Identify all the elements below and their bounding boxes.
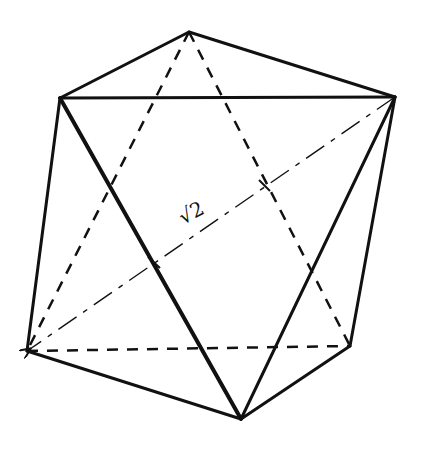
sqrt2-diagonal bbox=[30, 97, 395, 349]
edge-upperright-bottom bbox=[241, 97, 395, 419]
edge-left bbox=[27, 98, 60, 351]
octahedron-diagram: √2 bbox=[0, 0, 421, 449]
edge-right bbox=[350, 97, 395, 346]
hidden-edges bbox=[27, 32, 350, 351]
hidden-edge-top-lowerright bbox=[189, 32, 350, 346]
visible-edges bbox=[27, 32, 395, 419]
hidden-edge-base bbox=[27, 346, 350, 351]
hidden-edge-top-lowerleft bbox=[27, 32, 189, 351]
edge-top-upperright bbox=[189, 32, 395, 97]
edge-top-upperleft bbox=[60, 32, 189, 98]
sqrt2-label: √2 bbox=[174, 196, 208, 229]
edge-upper bbox=[60, 97, 395, 98]
